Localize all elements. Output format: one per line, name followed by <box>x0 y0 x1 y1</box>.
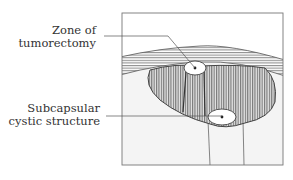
kidney-diagram <box>0 0 293 180</box>
